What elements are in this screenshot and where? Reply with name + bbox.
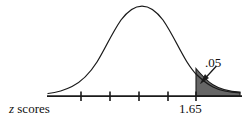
bell-curve bbox=[48, 6, 240, 94]
normal-distribution-figure: z scores 1.65 .05 bbox=[0, 0, 248, 125]
x-axis-label: z scores bbox=[9, 102, 50, 115]
critical-value-label: 1.65 bbox=[179, 102, 202, 115]
tail-probability-label: .05 bbox=[205, 56, 221, 69]
x-axis-label-text: scores bbox=[14, 101, 50, 116]
